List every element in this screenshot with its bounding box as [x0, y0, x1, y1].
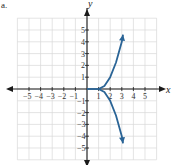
y-tick-label: 5 — [81, 26, 85, 35]
y-tick-label: −5 — [77, 144, 86, 153]
y-tick-label: 4 — [81, 38, 85, 47]
x-tick-label: 3 — [120, 92, 124, 101]
x-tick-label: −4 — [35, 92, 44, 101]
y-tick-label: −3 — [77, 120, 86, 129]
x-axis-label: x — [165, 84, 171, 95]
x-tick-label: −5 — [23, 92, 32, 101]
y-axis-label: y — [87, 0, 93, 9]
y-tick-label: 2 — [81, 61, 85, 70]
x-tick-label: 5 — [143, 92, 147, 101]
y-tick-label: −1 — [77, 97, 86, 106]
y-tick-label: −4 — [77, 132, 86, 141]
graph: a. −5−4−3−2−11234554321−1−2−3−4−5 x y — [0, 0, 173, 165]
panel-label: a. — [1, 0, 7, 10]
x-axis-left-arrow-icon — [6, 86, 13, 92]
y-axis-up-arrow-icon — [84, 9, 90, 16]
x-tick-label: −3 — [46, 92, 55, 101]
y-tick-label: 3 — [81, 50, 85, 59]
curve-upper-branch — [99, 35, 123, 89]
x-axis-right-arrow-icon — [159, 86, 166, 92]
x-tick-label: 4 — [131, 92, 135, 101]
y-tick-label: 1 — [81, 73, 85, 82]
x-tick-label: −2 — [58, 92, 67, 101]
y-tick-label: −2 — [77, 109, 86, 118]
x-tick-label: 1 — [97, 92, 101, 101]
axes — [6, 8, 166, 165]
y-axis-down-arrow-icon — [84, 160, 90, 165]
